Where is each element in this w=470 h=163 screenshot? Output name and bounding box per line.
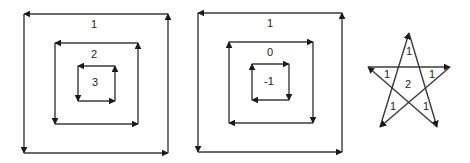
labels-b: 1 0 -1 <box>264 17 274 87</box>
winding-label: -1 <box>264 75 274 87</box>
winding-label: 1 <box>91 18 97 30</box>
directed-edge <box>368 67 437 127</box>
winding-label: 1 <box>429 68 435 80</box>
winding-label: 2 <box>405 78 411 90</box>
winding-label: 1 <box>384 68 390 80</box>
winding-number-figure: 1 2 3 1 0 -1 1 1 1 2 1 1 <box>0 0 470 163</box>
winding-label: 0 <box>267 46 273 58</box>
winding-label: 2 <box>91 48 97 60</box>
winding-label: 1 <box>406 45 412 57</box>
winding-label: 1 <box>390 100 396 112</box>
winding-label: 1 <box>267 17 273 29</box>
winding-label: 1 <box>423 100 429 112</box>
directed-edge <box>380 67 450 127</box>
directed-edge <box>409 33 437 127</box>
labels-a: 1 2 3 <box>91 18 98 88</box>
winding-label: 3 <box>92 76 98 88</box>
